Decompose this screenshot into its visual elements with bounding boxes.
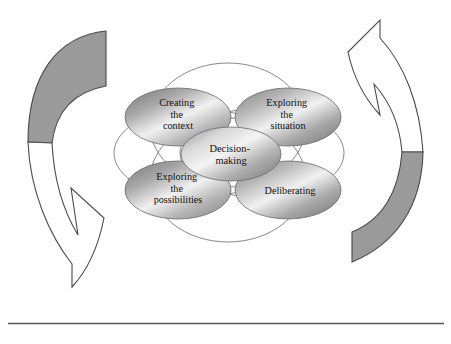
left-arrow-upper-band (28, 31, 106, 143)
right-arrow-lower-band (352, 152, 423, 262)
decision-making-diagram: Creating the context Exploring the situa… (0, 0, 451, 344)
left-arrow-lower-head (28, 142, 104, 287)
label-deliberating: Deliberating (265, 185, 316, 196)
label-decision-making: Decision- making (209, 143, 252, 166)
right-arrow-upper-head (348, 20, 423, 152)
figure-canvas: Creating the context Exploring the situa… (0, 0, 451, 344)
